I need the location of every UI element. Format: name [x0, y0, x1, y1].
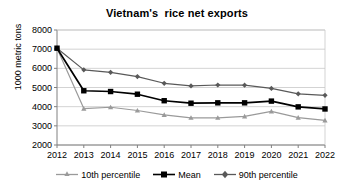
- data-point-marker: [322, 93, 327, 98]
- data-point-marker: [108, 89, 113, 94]
- data-point-marker: [135, 92, 140, 97]
- legend-item-mean[interactable]: Mean: [153, 169, 201, 180]
- y-tick-label: 4000: [18, 102, 52, 112]
- chart-legend: 10th percentile Mean 90th percentile: [0, 169, 354, 180]
- chart-container: Vietnam's rice net exports 1000 metric t…: [0, 0, 354, 191]
- data-point-marker: [322, 106, 327, 111]
- data-point-marker: [296, 91, 301, 96]
- data-point-marker: [269, 86, 274, 91]
- legend-marker-diamond-icon: [214, 169, 236, 180]
- legend-marker-triangle-icon: [56, 169, 78, 180]
- legend-label-mean: Mean: [178, 170, 201, 180]
- data-point-marker: [162, 98, 167, 103]
- series-mean: [54, 46, 327, 112]
- y-tick-label: 5000: [18, 83, 52, 93]
- legend-label-90th-percentile: 90th percentile: [239, 170, 298, 180]
- data-point-marker: [54, 46, 59, 51]
- data-point-marker: [269, 98, 274, 103]
- y-tick-label: 6000: [18, 63, 52, 73]
- data-point-marker: [108, 70, 113, 75]
- data-point-marker: [188, 101, 193, 106]
- data-point-marker: [162, 81, 167, 86]
- x-tick-label: 2022: [308, 150, 342, 160]
- data-point-marker: [135, 74, 140, 79]
- data-point-marker: [81, 88, 86, 93]
- series-line: [57, 48, 325, 109]
- legend-item-90th-percentile[interactable]: 90th percentile: [214, 169, 298, 180]
- data-point-marker: [215, 100, 220, 105]
- y-tick-label: 7000: [18, 44, 52, 54]
- series-layer: [54, 46, 327, 123]
- data-point-marker: [242, 83, 247, 88]
- series-90th-percentile: [54, 46, 327, 98]
- data-point-marker: [242, 100, 247, 105]
- y-tick-label: 2000: [18, 140, 52, 150]
- legend-item-10th-percentile[interactable]: 10th percentile: [56, 169, 140, 180]
- plot-area: [0, 0, 354, 191]
- y-tick-label: 8000: [18, 25, 52, 35]
- legend-label-10th-percentile: 10th percentile: [81, 170, 140, 180]
- legend-marker-square-icon: [153, 169, 175, 180]
- data-point-marker: [296, 104, 301, 109]
- data-point-marker: [215, 82, 220, 87]
- y-tick-label: 3000: [18, 121, 52, 131]
